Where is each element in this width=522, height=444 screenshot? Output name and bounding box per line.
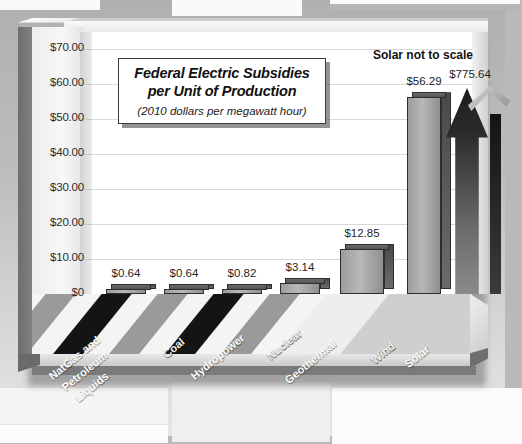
- y-axis-tick-label: $0: [32, 286, 84, 298]
- bar-front-face: [407, 97, 441, 294]
- chart-subtitle: (2010 dollars per megawatt hour): [137, 105, 306, 117]
- solar-arrow-shaft: [446, 88, 488, 294]
- y-axis-tick-label: $10.00: [32, 251, 84, 263]
- y-axis-tick-label: $70.00: [32, 41, 84, 53]
- y-axis-tick-label: $20.00: [32, 216, 84, 228]
- chart-title-line-2: per Unit of Production: [148, 83, 297, 100]
- bar-top-face: [111, 284, 151, 290]
- backdrop-block-bottom-right: [332, 388, 522, 444]
- bar-top-face: [227, 284, 267, 290]
- y-axis-tick-label: $60.00: [32, 76, 84, 88]
- bar-top-face: [345, 244, 389, 250]
- bar: [407, 97, 441, 294]
- bar-top-face: [169, 284, 209, 290]
- bar: [106, 289, 146, 294]
- backdrop-block-top-middle: [172, 0, 302, 16]
- solar-not-to-scale-note: Solar not to scale: [348, 48, 498, 62]
- y-axis-tick-label: $50.00: [32, 111, 84, 123]
- chart-floor: [32, 294, 472, 356]
- y-axis-tick-label: $40.00: [32, 146, 84, 158]
- bar: [340, 249, 384, 294]
- bar-front-face: [340, 249, 384, 294]
- bar: [222, 289, 262, 294]
- solar-arrow: [446, 88, 502, 294]
- y-axis-tick-label: $30.00: [32, 181, 84, 193]
- backdrop-block-top-left: [0, 0, 100, 10]
- chart-back-wall-top-edge: [64, 18, 488, 21]
- bar: [164, 289, 204, 294]
- bar-front-face: [280, 283, 320, 294]
- backdrop-block-top-right-shadow: [330, 4, 520, 10]
- bar-side-face: [384, 244, 394, 289]
- bar-chart: $70.00$60.00$50.00$40.00$30.00$20.00$10.…: [18, 18, 488, 378]
- bar-top-face: [285, 278, 325, 284]
- bar: [280, 283, 320, 294]
- backdrop-block-bottom-middle: [172, 382, 330, 442]
- bar-value-label: $775.64: [418, 68, 522, 80]
- chart-title-box: Federal Electric Subsidies per Unit of P…: [118, 58, 326, 124]
- bar-value-label: $12.85: [328, 227, 396, 239]
- backdrop-block-bottom-left: [0, 425, 168, 443]
- bar-value-label: $3.14: [266, 261, 334, 273]
- chart-title-line-1: Federal Electric Subsidies: [134, 65, 309, 82]
- bar-top-face: [412, 92, 446, 98]
- solar-arrow-side-face: [490, 114, 501, 294]
